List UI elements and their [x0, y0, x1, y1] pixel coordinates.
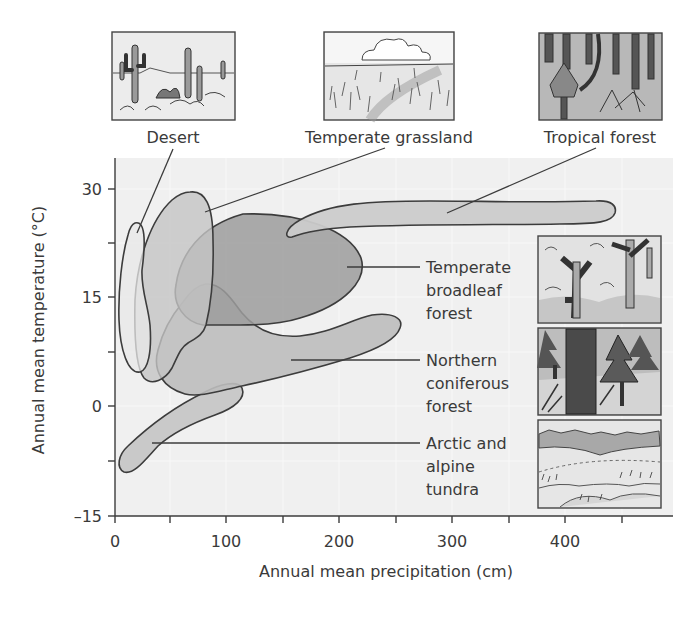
desert-illustration — [112, 32, 235, 120]
x-tick-label: 0 — [110, 532, 120, 551]
label-grassland: Temperate grassland — [304, 128, 473, 147]
label-tundra-line2: alpine — [426, 457, 475, 476]
y-ticks — [108, 189, 115, 516]
x-tick-label: 300 — [437, 532, 468, 551]
tundra-illustration — [538, 420, 661, 508]
label-coniferous-line2: coniferous — [426, 374, 509, 393]
broadleaf-forest-illustration — [538, 236, 661, 323]
x-tick-label: 200 — [324, 532, 355, 551]
label-broadleaf-line3: forest — [426, 304, 472, 323]
x-axis-title: Annual mean precipitation (cm) — [259, 562, 513, 581]
label-broadleaf-line1: Temperate — [425, 258, 511, 277]
coniferous-forest-illustration — [537, 328, 661, 415]
label-broadleaf-line2: broadleaf — [426, 281, 502, 300]
y-tick-label: 15 — [82, 288, 102, 307]
y-tick-label: 0 — [92, 397, 102, 416]
tropical-forest-illustration — [539, 33, 662, 120]
x-tick-label: 400 — [550, 532, 581, 551]
x-ticks — [115, 516, 622, 523]
y-axis-title: Annual mean temperature (°C) — [29, 206, 48, 454]
x-tick-label: 100 — [211, 532, 242, 551]
y-tick-label: –15 — [74, 507, 102, 526]
label-coniferous-line3: forest — [426, 397, 472, 416]
y-tick-label: 30 — [82, 180, 102, 199]
label-coniferous-line1: Northern — [426, 351, 497, 370]
biome-climograph: 30 15 0 –15 0 100 200 300 400 Annual mea… — [0, 0, 691, 617]
label-tundra-line3: tundra — [426, 480, 479, 499]
grassland-illustration — [324, 32, 454, 120]
label-tropical: Tropical forest — [543, 128, 656, 147]
label-tundra-line1: Arctic and — [426, 434, 507, 453]
label-desert: Desert — [146, 128, 199, 147]
